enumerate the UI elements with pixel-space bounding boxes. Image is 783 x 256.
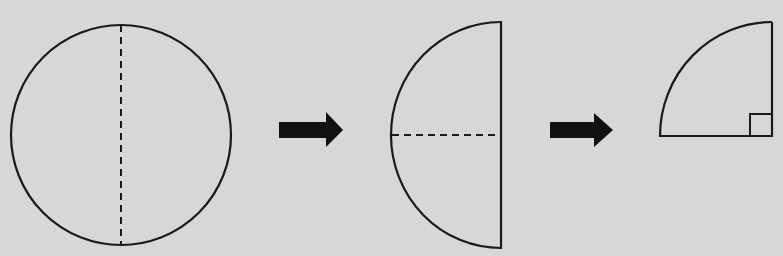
step-2-semicircle (391, 21, 501, 249)
right-arrow-icon (550, 113, 613, 147)
step-1-circle (11, 25, 231, 245)
right-angle-marker (750, 114, 772, 136)
step-3-quarter-circle (659, 22, 773, 137)
fold-diagram (0, 0, 783, 256)
right-arrow-icon (279, 112, 343, 147)
diagram-canvas (0, 0, 783, 256)
